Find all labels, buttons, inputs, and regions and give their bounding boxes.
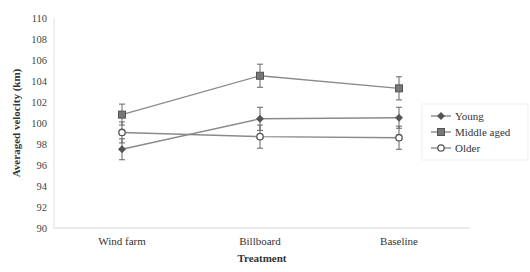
- y-tick-label: 96: [37, 160, 48, 171]
- y-tick-label: 106: [31, 55, 47, 66]
- x-axis-title: Treatment: [237, 252, 286, 264]
- x-tick-label: Wind farm: [98, 235, 146, 247]
- y-tick-label: 90: [37, 223, 48, 234]
- y-axis-ticks: 9092949698100102104106108110: [31, 13, 48, 234]
- circle-marker-icon: [396, 135, 402, 141]
- square-marker-icon: [119, 111, 126, 118]
- line-chart: 9092949698100102104106108110 Wind farmBi…: [0, 0, 530, 272]
- y-axis-title: Averaged velocity (km): [10, 68, 23, 177]
- x-axis-categories: Wind farmBillboardBaseline: [98, 235, 418, 247]
- diamond-marker-icon: [395, 114, 403, 122]
- legend-label: Older: [455, 142, 480, 154]
- circle-marker-icon: [438, 145, 444, 151]
- y-tick-label: 102: [31, 97, 47, 108]
- data-series: [118, 64, 403, 160]
- y-tick-label: 100: [31, 118, 47, 129]
- y-tick-label: 104: [31, 76, 48, 87]
- y-tick-label: 110: [32, 13, 47, 24]
- y-tick-label: 98: [37, 139, 48, 150]
- diamond-marker-icon: [256, 115, 264, 123]
- square-marker-icon: [257, 72, 264, 79]
- legend-label: Middle aged: [455, 126, 511, 138]
- y-tick-label: 92: [37, 202, 48, 213]
- y-tick-label: 108: [31, 34, 47, 45]
- circle-marker-icon: [119, 129, 125, 135]
- y-tick-label: 94: [37, 181, 48, 192]
- legend: YoungMiddle agedOlder: [422, 104, 528, 160]
- legend-label: Young: [455, 110, 484, 122]
- diamond-marker-icon: [118, 145, 126, 153]
- x-tick-label: Billboard: [239, 235, 281, 247]
- square-marker-icon: [438, 129, 445, 136]
- series-older: [119, 122, 402, 149]
- circle-marker-icon: [257, 133, 263, 139]
- x-tick-label: Baseline: [380, 235, 418, 247]
- square-marker-icon: [396, 85, 403, 92]
